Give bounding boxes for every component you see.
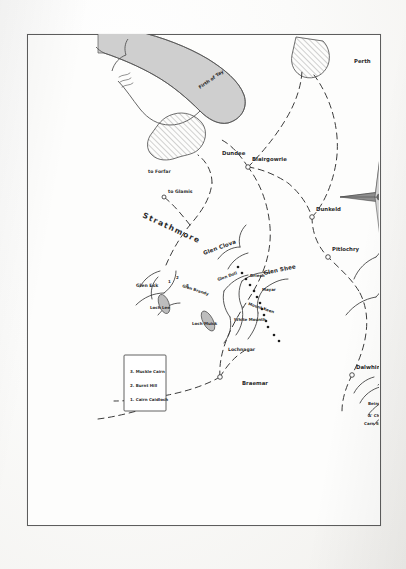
town-label-dunkeld: Dunkeld (316, 206, 341, 212)
town-label-braemar: Braemar (242, 380, 268, 386)
hill-label-beinn-a-chlachair: Beinn a' Chlachair (368, 401, 379, 406)
hill-label-mount-keen: Mount Keen (248, 301, 275, 314)
summit-number-2: 2 (176, 275, 179, 280)
marker-dunkeld (310, 215, 315, 220)
glen-label-glen-esk: Glen Esk (136, 283, 159, 288)
legend-item-1: 1. Cairn Caidloch (130, 397, 168, 402)
glen-label-glen-clova: Glen Clova (202, 238, 237, 255)
firth-of-tay-water (96, 34, 245, 125)
city-label-perth: Perth (354, 58, 371, 64)
water-label-loch-muick: Loch Muick (192, 321, 217, 326)
glen-label-strathmore: Strathmore (141, 211, 202, 246)
marker-blairgowrie (246, 165, 251, 170)
hill-label-mayar: Mayar (262, 287, 276, 292)
marker-dalwhinnie (350, 373, 355, 378)
town-label-blairgowrie: Blairgowrie (252, 156, 287, 163)
city-label-dundee: Dundee (222, 150, 246, 156)
hill-label-white-mounth: White Mounth (234, 317, 266, 322)
hill-label-a-chailleach: A' Chailleach (368, 413, 379, 418)
road-label-to-forfar: to Forfar (148, 169, 171, 174)
marker-pitlochry (326, 255, 331, 260)
dundee-urban-area (148, 113, 206, 160)
marker-braemar (218, 375, 223, 380)
town-label-pitlochry: Pitlochry (332, 246, 360, 253)
summit-number-3: 3 (186, 283, 189, 288)
compass-rose (340, 157, 379, 237)
summit-number-1: 1 (168, 279, 171, 284)
marker-glamis (162, 195, 166, 199)
hill-label-lochnagar: Lochnagar (228, 347, 256, 352)
hill-label-driesh: Driesh (250, 273, 265, 278)
legend-item-3: 3. Muckle Cairn (130, 369, 165, 374)
water-label-loch-lee: Loch Lee (150, 305, 170, 310)
glen-label-glen-shee: Glen Shee (263, 263, 296, 276)
map-canvas: Dundee Firth of Tay Perth (27, 34, 379, 524)
perth-urban-area (292, 37, 330, 78)
legend-box: 1. Cairn Caidloch 2. Burnt Hill 3. Muckl… (124, 355, 168, 411)
legend-item-2: 2. Burnt Hill (130, 383, 158, 388)
road-label-to-glamis: to Glamis (168, 189, 193, 194)
town-label-dalwhinnie: Dalwhinnie (356, 364, 379, 370)
hill-label-carn-sgulain: Carn Sgulain (364, 421, 379, 426)
